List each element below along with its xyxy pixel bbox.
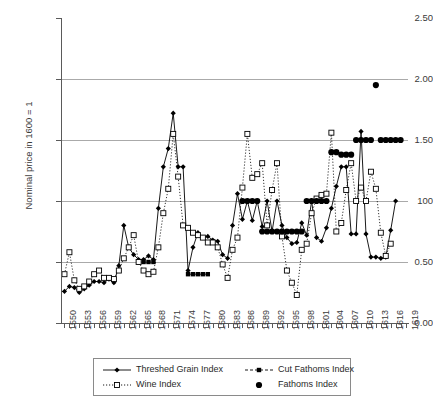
data-point [270,188,275,193]
data-point [151,260,155,264]
data-point [115,383,120,388]
legend-label: Threshed Grain Index [136,364,223,374]
x-tick-mark [262,324,263,328]
x-tick-mark [326,324,327,328]
data-point [200,235,205,240]
x-tick-mark [79,324,80,328]
data-point [235,235,240,240]
data-point [240,185,245,190]
data-point [329,206,334,211]
data-point [363,199,368,204]
chart-title-fragment [150,0,270,7]
data-point [116,268,121,273]
data-point [176,164,181,169]
data-point [196,272,200,276]
x-tick-mark [233,324,234,328]
data-point [62,272,67,277]
data-point [378,230,383,235]
data-point [156,245,161,250]
data-point [255,172,260,177]
data-point [111,277,116,282]
data-point [299,220,304,225]
data-point [116,263,121,268]
data-point [245,131,250,136]
x-tick-mark [356,324,357,328]
data-point [250,175,255,180]
legend-label: Cut Fathoms Index [278,364,354,374]
data-point [397,137,403,143]
data-point [151,269,156,274]
x-tick-mark [307,324,308,328]
x-tick-mark [396,324,397,328]
x-tick-mark [267,324,268,328]
x-tick-mark [341,324,342,328]
data-point [319,192,324,197]
x-tick-mark [139,324,140,328]
data-point [235,191,240,196]
data-point [349,231,354,236]
data-point [230,223,235,228]
data-point [210,240,215,245]
x-tick-mark [163,324,164,328]
data-point [275,161,280,166]
x-tick-mark [376,324,377,328]
data-point [368,169,373,174]
data-point [378,256,383,261]
x-tick-mark [252,324,253,328]
data-point [195,233,200,238]
x-tick-mark [188,324,189,328]
chart-container: Nominal price in 1600 = 1 0.000.501001.5… [0,0,433,403]
data-point [190,230,195,235]
data-point [77,286,82,291]
x-tick-mark [336,324,337,328]
data-point [171,111,176,116]
data-point [250,218,255,223]
data-point [181,164,186,169]
legend-swatch-open-square-icon [100,380,134,390]
x-tick-mark [119,324,120,328]
data-point [294,240,299,245]
data-point [225,275,230,280]
series-fathoms-index [239,82,403,235]
data-point [339,164,344,169]
data-point [260,161,265,166]
data-point [348,152,354,158]
data-point [334,229,339,234]
x-tick-mark [218,324,219,328]
x-tick-mark [331,324,332,328]
data-point [67,250,72,255]
data-point [131,233,136,238]
data-point [186,225,191,230]
x-tick-mark [292,324,293,328]
x-tick-mark [371,324,372,328]
data-point [215,239,220,244]
data-point [329,130,334,135]
x-tick-mark [237,324,238,328]
data-point [121,256,126,261]
data-point [87,279,92,284]
data-point [92,272,97,277]
x-tick-mark [114,324,115,328]
x-tick-mark [168,324,169,328]
data-point [363,231,368,236]
x-tick-mark [391,324,392,328]
x-tick-mark [74,324,75,328]
x-tick-mark [312,324,313,328]
data-point [289,280,294,285]
data-point [354,199,359,204]
x-tick-mark [351,324,352,328]
x-tick-mark [317,324,318,328]
x-tick-mark [173,324,174,328]
data-point [373,186,378,191]
x-tick-mark [208,324,209,328]
data-point [96,279,101,284]
data-point [166,186,171,191]
x-tick-mark [247,324,248,328]
x-tick-mark [94,324,95,328]
data-point [323,198,329,204]
data-point [146,260,150,264]
data-point [201,272,205,276]
data-point [240,217,245,222]
data-point [349,161,354,166]
x-tick-mark [223,324,224,328]
